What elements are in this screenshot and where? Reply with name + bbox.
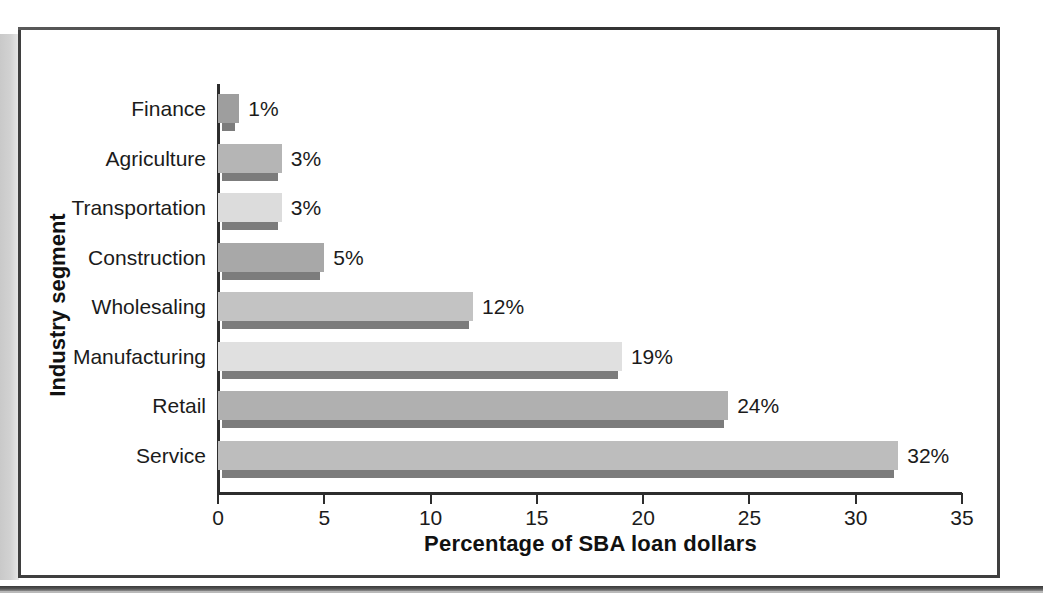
- x-axis-tick-label: 15: [525, 506, 548, 530]
- bar-shadow: [222, 470, 894, 478]
- bar-shadow: [222, 371, 618, 379]
- x-axis-tick-label: 0: [212, 506, 224, 530]
- bar[interactable]: [218, 144, 282, 173]
- bar-shadow: [222, 173, 278, 181]
- bar[interactable]: [218, 94, 239, 123]
- bar-value-label: 19%: [631, 345, 673, 369]
- x-axis-tick: [536, 493, 538, 504]
- bar-value-label: 3%: [291, 147, 321, 171]
- bar-value-label: 5%: [333, 246, 363, 270]
- bar-value-label: 12%: [482, 295, 524, 319]
- bar[interactable]: [218, 292, 473, 321]
- bar[interactable]: [218, 441, 898, 470]
- bar-row[interactable]: 32%: [218, 441, 1018, 478]
- scanned-page: 05101520253035 1%3%3%5%12%19%24%32% Fina…: [0, 0, 1043, 602]
- x-axis-tick-label: 25: [738, 506, 761, 530]
- y-axis-category-label: Manufacturing: [0, 345, 206, 369]
- bar-shadow: [222, 123, 235, 131]
- bar[interactable]: [218, 193, 282, 222]
- x-axis-title: Percentage of SBA loan dollars: [218, 531, 963, 557]
- bar-chart: 05101520253035 1%3%3%5%12%19%24%32% Fina…: [0, 0, 1043, 602]
- y-axis-category-label: Retail: [0, 394, 206, 418]
- x-axis-tick: [217, 493, 219, 504]
- x-axis-tick: [961, 493, 963, 504]
- bar-shadow: [222, 321, 469, 329]
- bar-shadow: [222, 272, 320, 280]
- x-axis-tick-label: 35: [950, 506, 973, 530]
- x-axis-tick: [323, 493, 325, 504]
- bar-shadow: [222, 222, 278, 230]
- x-axis-tick: [642, 493, 644, 504]
- bar-row[interactable]: 5%: [218, 243, 444, 280]
- page-bottom-rule-light: [0, 591, 1043, 593]
- bar-row[interactable]: 3%: [218, 193, 402, 230]
- y-axis-category-label: Service: [0, 444, 206, 468]
- bar[interactable]: [218, 243, 324, 272]
- x-axis-line: [217, 492, 962, 495]
- y-axis-category-label: Construction: [0, 246, 206, 270]
- x-axis-tick: [855, 493, 857, 504]
- bar-row[interactable]: 19%: [218, 342, 742, 379]
- bar[interactable]: [218, 391, 728, 420]
- x-axis-tick-label: 20: [631, 506, 654, 530]
- bar-value-label: 3%: [291, 196, 321, 220]
- bar-value-label: 24%: [737, 394, 779, 418]
- x-axis-tick-label: 5: [318, 506, 330, 530]
- x-axis-tick-label: 10: [419, 506, 442, 530]
- bar-row[interactable]: 12%: [218, 292, 593, 329]
- bar-shadow: [222, 420, 724, 428]
- y-axis-title: Industry segment: [45, 175, 71, 435]
- y-axis-category-label: Finance: [0, 97, 206, 121]
- bar-row[interactable]: 1%: [218, 94, 359, 131]
- bar-row[interactable]: 3%: [218, 144, 402, 181]
- x-axis-tick: [430, 493, 432, 504]
- x-axis-tick: [748, 493, 750, 504]
- y-axis-category-label: Wholesaling: [0, 295, 206, 319]
- y-axis-category-label: Agriculture: [0, 147, 206, 171]
- bar-value-label: 32%: [907, 444, 949, 468]
- x-axis-tick-label: 30: [844, 506, 867, 530]
- bar-row[interactable]: 24%: [218, 391, 848, 428]
- bar-value-label: 1%: [248, 97, 278, 121]
- y-axis-category-label: Transportation: [0, 196, 206, 220]
- bar[interactable]: [218, 342, 622, 371]
